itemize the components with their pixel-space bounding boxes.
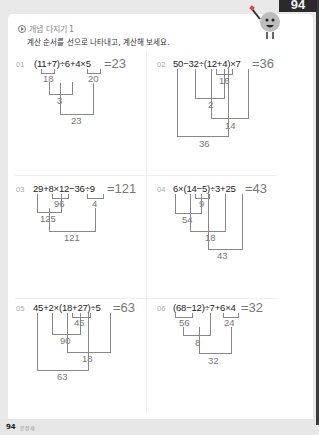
answer: =63 xyxy=(113,300,135,315)
answer: =36 xyxy=(252,56,274,71)
row-divider xyxy=(15,175,277,176)
step-value: 121 xyxy=(64,232,80,243)
footer-page-number: 94 xyxy=(6,423,16,431)
expression: 50−32÷(12+4)×7 xyxy=(173,58,241,69)
step-value: 32 xyxy=(208,355,219,366)
row-divider xyxy=(15,298,277,299)
mascot-character-icon xyxy=(248,5,288,45)
expression: 6×(14−5)÷3+25 xyxy=(173,183,236,194)
page-footer: 94 문장제 xyxy=(0,419,316,435)
bracket xyxy=(37,313,89,371)
problem-number: 04 xyxy=(157,185,165,194)
expression: 45+2×(18+27)÷5 xyxy=(33,302,101,313)
expression: (68−12)÷7+6×4 xyxy=(173,302,236,313)
step-value: 36 xyxy=(199,138,210,149)
step-value: 23 xyxy=(71,115,82,126)
bracket xyxy=(60,83,94,115)
problem-number: 06 xyxy=(157,304,165,313)
problem-number: 03 xyxy=(16,185,24,194)
footer-label: 문장제 xyxy=(20,424,35,431)
expression: 29+8×12−36÷9 xyxy=(33,183,95,194)
page-edge xyxy=(316,0,319,425)
problem-number: 05 xyxy=(16,304,24,313)
problem-number: 02 xyxy=(157,60,165,69)
answer: =121 xyxy=(107,181,136,196)
step-value: 43 xyxy=(217,250,228,261)
step-value: 63 xyxy=(57,371,68,382)
answer: =32 xyxy=(241,300,263,315)
section-header: 개념 다지기 1 xyxy=(18,23,74,34)
expression: (11+7)÷6+4×5 xyxy=(34,58,91,69)
bracket xyxy=(177,69,229,137)
problem-number: 01 xyxy=(16,60,24,69)
bracket xyxy=(208,194,243,250)
instruction-text: 계산 순서를 선으로 나타내고, 계산해 보세요. xyxy=(27,36,170,47)
section-title: 개념 다지기 1 xyxy=(29,23,74,34)
answer: =43 xyxy=(245,181,267,196)
play-circle-icon xyxy=(18,25,26,33)
column-divider xyxy=(146,52,147,412)
bracket xyxy=(199,327,232,354)
answer: =23 xyxy=(104,56,126,71)
bracket xyxy=(49,208,96,232)
